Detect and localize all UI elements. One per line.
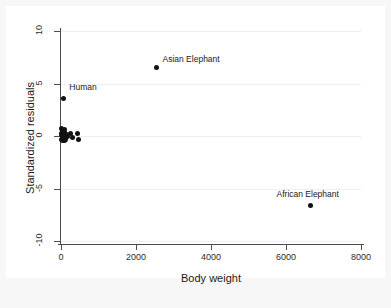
x-axis-title: Body weight [61, 272, 361, 284]
data-point-label: Human [69, 82, 96, 92]
gridline-horizontal [61, 31, 361, 32]
gridline-horizontal [61, 136, 361, 137]
y-axis-title-holder: Standardized residuals [0, 31, 20, 241]
y-axis-tick [54, 189, 60, 190]
data-point-label: African Elephant [277, 189, 339, 199]
x-axis-tick [211, 245, 212, 250]
y-axis-title: Standardized residuals [24, 48, 36, 228]
x-axis-tick-label: 4000 [181, 252, 241, 262]
data-point-labeled [61, 96, 66, 101]
data-point [75, 131, 80, 136]
data-point [70, 135, 75, 140]
y-axis-tick-label: -10 [34, 229, 44, 251]
x-axis-tick-label: 0 [31, 252, 91, 262]
y-axis-tick [54, 84, 60, 85]
y-axis-tick-label: 10 [34, 19, 44, 41]
x-axis-tick-label: 8000 [331, 252, 391, 262]
y-axis-tick [54, 241, 60, 242]
x-axis-tick [136, 245, 137, 250]
x-axis-tick-label: 2000 [106, 252, 166, 262]
scatter-plot-figure: 1050-5-10 02000400060008000 Asian Elepha… [0, 0, 391, 308]
data-point-label: Asian Elephant [163, 54, 220, 64]
gridline-horizontal [61, 84, 361, 85]
y-axis-tick [54, 31, 60, 32]
x-axis-tick [286, 245, 287, 250]
x-axis-tick [361, 245, 362, 250]
x-axis-tick-label: 6000 [256, 252, 316, 262]
data-point [76, 137, 81, 142]
data-point-labeled [308, 203, 313, 208]
gridline-horizontal [61, 241, 361, 242]
x-axis-tick [61, 245, 62, 250]
